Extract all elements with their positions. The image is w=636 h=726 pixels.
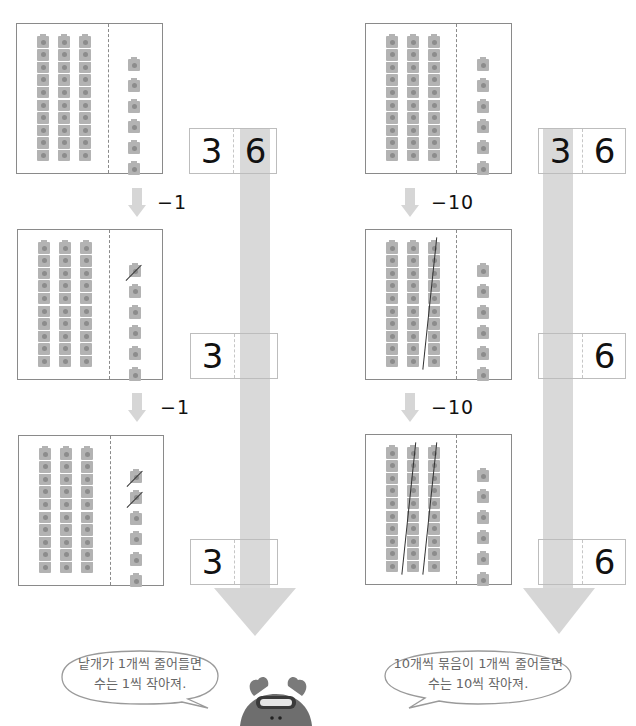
- unit-cube: [58, 74, 70, 86]
- unit-cube: [81, 511, 93, 523]
- unit-cube: [37, 137, 49, 149]
- unit-cube: [477, 80, 489, 92]
- unit-cube: [38, 318, 50, 330]
- unit-cube: [60, 486, 72, 498]
- unit-cube: [58, 137, 70, 149]
- unit-cube: [80, 280, 92, 292]
- unit-cube: [407, 112, 419, 124]
- down-arrow-icon: [128, 188, 146, 218]
- unit-cube: [58, 149, 70, 161]
- unit-cube: [128, 121, 140, 133]
- step-label-minus-1: −1: [157, 191, 187, 213]
- unit-cube: [386, 255, 398, 267]
- unit-cube: [386, 86, 398, 98]
- ten-rod: [79, 36, 91, 162]
- unit-cube: [58, 99, 70, 111]
- unit-cube: [38, 292, 50, 304]
- unit-cube: [60, 448, 72, 460]
- place-divider: [456, 230, 457, 379]
- unit-cube: [477, 470, 489, 482]
- ten-rod: [386, 36, 398, 162]
- unit-cube: [386, 61, 398, 73]
- unit-cube: [59, 242, 71, 254]
- unit-cube: [37, 124, 49, 136]
- unit-cube: [38, 343, 50, 355]
- unit-cube: [428, 355, 440, 367]
- unit-cube: [428, 330, 440, 342]
- block-frame-right-3: [365, 434, 512, 585]
- unit-cube: [407, 99, 419, 111]
- ten-rod: [59, 242, 71, 368]
- unit-cube: [407, 86, 419, 98]
- unit-cube: [79, 124, 91, 136]
- unit-cube: [477, 101, 489, 113]
- unit-cube: [386, 242, 398, 254]
- ones-digit: 6: [234, 131, 277, 171]
- unit-cube: [477, 163, 489, 175]
- unit-cube: [37, 86, 49, 98]
- unit-cube: [428, 137, 440, 149]
- down-arrow-icon: [128, 393, 146, 423]
- unit-cube: [386, 355, 398, 367]
- step-label-minus-10: −10: [431, 191, 474, 213]
- unit-cube: [386, 292, 398, 304]
- ten-rod: [386, 447, 398, 573]
- unit-cube: [80, 343, 92, 355]
- unit-cube: [81, 524, 93, 536]
- unit-cube: [59, 305, 71, 317]
- ten-rod: [60, 448, 72, 574]
- unit-cube: [37, 49, 49, 61]
- unit-cube: [58, 36, 70, 48]
- unit-cube: [79, 149, 91, 161]
- unit-cube: [428, 523, 440, 535]
- unit-cube: [386, 280, 398, 292]
- unit-cube: [60, 461, 72, 473]
- unit-cube: [39, 461, 51, 473]
- unit-cube: [37, 36, 49, 48]
- unit-cube: [39, 486, 51, 498]
- bubble-text-right: 10개씩 묶음이 1개씩 줄어들면수는 10씩 작아져.: [383, 654, 573, 694]
- unit-cube: [80, 305, 92, 317]
- unit-cube: [407, 242, 419, 254]
- tens-digit: 3: [191, 336, 234, 376]
- unit-cube: [386, 560, 398, 572]
- unit-cube: [407, 535, 419, 547]
- unit-cube: [407, 280, 419, 292]
- unit-cube: [80, 355, 92, 367]
- unit-cube: [39, 536, 51, 548]
- unit-cube: [81, 473, 93, 485]
- unit-cube: [386, 460, 398, 472]
- unit-cube: [428, 99, 440, 111]
- step-label-minus-10: −10: [431, 396, 474, 418]
- unit-cube: [37, 112, 49, 124]
- unit-cube: [59, 318, 71, 330]
- unit-cube: [79, 61, 91, 73]
- unit-cube: [128, 142, 140, 154]
- unit-cube: [79, 86, 91, 98]
- block-frame-left-2: [17, 229, 163, 380]
- block-frame-right-2: [365, 229, 512, 380]
- unit-cube: [129, 348, 141, 360]
- ten-rod: [407, 242, 419, 368]
- unit-cube: [130, 575, 142, 587]
- unit-cube: [37, 149, 49, 161]
- unit-cube: [407, 343, 419, 355]
- place-divider: [456, 435, 457, 584]
- unit-cube: [477, 553, 489, 565]
- unit-cube: [386, 447, 398, 459]
- unit-cube: [58, 49, 70, 61]
- step-label-minus-1: −1: [160, 396, 190, 418]
- ones-digit: 6: [583, 336, 626, 376]
- unit-cube: [407, 149, 419, 161]
- unit-cube: [60, 511, 72, 523]
- tens-digit: 3: [539, 131, 582, 171]
- ten-rod: [386, 242, 398, 368]
- unit-cube: [37, 61, 49, 73]
- unit-cube: [60, 473, 72, 485]
- unit-cube: [129, 286, 141, 298]
- unit-cube: [428, 86, 440, 98]
- unit-cube: [80, 330, 92, 342]
- place-divider: [110, 436, 111, 585]
- unit-cube: [428, 343, 440, 355]
- unit-cube: [428, 318, 440, 330]
